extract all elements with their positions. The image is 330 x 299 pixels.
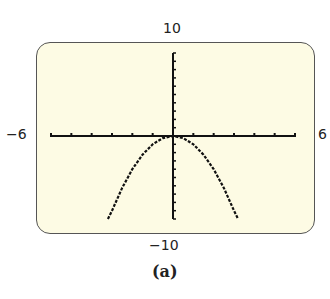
graph-plot [0, 0, 330, 299]
